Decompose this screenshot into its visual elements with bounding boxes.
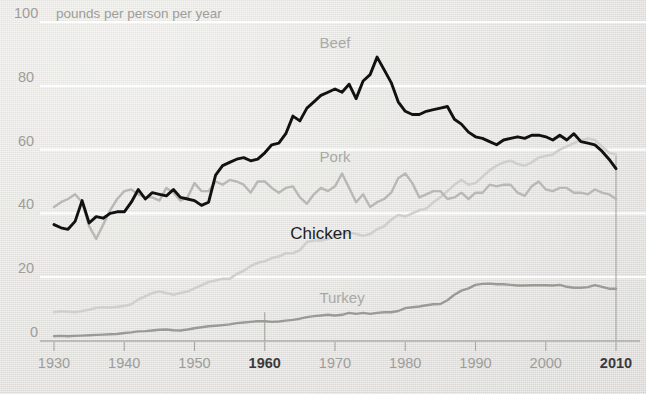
series-line-beef bbox=[54, 57, 616, 229]
y-tick-label-80: 80 bbox=[18, 69, 34, 85]
series-label-chicken: Chicken bbox=[290, 224, 351, 243]
x-tick-label-1950: 1950 bbox=[178, 355, 210, 371]
y-tick-label-40: 40 bbox=[18, 196, 34, 212]
series-label-beef: Beef bbox=[320, 34, 352, 51]
y-tick-label-0: 0 bbox=[30, 324, 38, 340]
meat-consumption-line-chart: 020406080100pounds per person per year19… bbox=[0, 0, 646, 394]
x-tick-label-1970: 1970 bbox=[319, 355, 351, 371]
x-tick-label-2000: 2000 bbox=[530, 355, 562, 371]
y-tick-label-20: 20 bbox=[18, 260, 34, 276]
series-label-turkey: Turkey bbox=[319, 289, 365, 306]
x-tick-label-1990: 1990 bbox=[459, 355, 491, 371]
x-tick-label-1980: 1980 bbox=[389, 355, 421, 371]
x-tick-label-1940: 1940 bbox=[108, 355, 140, 371]
x-tick-label-1930: 1930 bbox=[38, 355, 70, 371]
x-tick-label-1960: 1960 bbox=[249, 355, 281, 371]
y-tick-label-100: 100 bbox=[14, 5, 38, 21]
unit-label: pounds per person per year bbox=[56, 6, 222, 21]
y-tick-label-60: 60 bbox=[18, 133, 34, 149]
x-tick-label-2010: 2010 bbox=[600, 355, 632, 371]
series-label-pork: Pork bbox=[320, 148, 351, 165]
chart-canvas: 020406080100pounds per person per year19… bbox=[0, 0, 646, 394]
